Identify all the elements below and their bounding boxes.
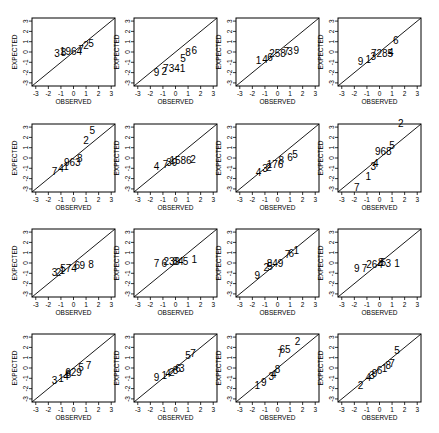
- x-tick-label: -3: [339, 301, 345, 308]
- y-tick-label: 0: [226, 156, 233, 160]
- y-tick-label: 0: [226, 261, 233, 265]
- y-tick-label: -2: [328, 385, 335, 391]
- y-tick-label: -2: [124, 385, 131, 391]
- point-label: 5: [78, 362, 84, 373]
- x-axis-label: OBSERVED: [55, 98, 91, 105]
- point-label: 9: [154, 372, 160, 383]
- x-tick-label: -1: [58, 406, 64, 413]
- x-tick-label: -3: [237, 196, 243, 203]
- y-axis-label: EXPECTED: [215, 350, 222, 385]
- y-tick-label: -2: [226, 280, 233, 286]
- point-label: 8: [185, 47, 191, 58]
- y-tick-label: 0: [124, 261, 131, 265]
- y-tick-label: 0: [328, 261, 335, 265]
- x-tick-label: 0: [378, 301, 382, 308]
- x-axis-label: OBSERVED: [259, 98, 295, 105]
- y-axis-label: EXPECTED: [113, 245, 120, 280]
- y-tick-label: -2: [124, 175, 131, 181]
- x-tick-label: 1: [390, 301, 394, 308]
- x-tick-label: 0: [72, 406, 76, 413]
- y-tick-label: -2: [22, 175, 29, 181]
- x-axis-label: OBSERVED: [157, 309, 193, 316]
- y-tick-label: -2: [226, 69, 233, 75]
- point-label: 1: [256, 55, 262, 66]
- point-label: 3: [52, 375, 58, 386]
- x-axis-label: OBSERVED: [157, 414, 193, 421]
- point-label: 9: [154, 67, 160, 78]
- x-tick-label: -3: [33, 196, 39, 203]
- x-tick-label: 3: [109, 301, 113, 308]
- x-tick-label: 3: [415, 406, 419, 413]
- y-axis-label: EXPECTED: [317, 140, 324, 175]
- x-tick-label: -1: [58, 196, 64, 203]
- y-axis-label: EXPECTED: [317, 350, 324, 385]
- y-axis-label: EXPECTED: [11, 34, 18, 69]
- point-label: 3: [386, 258, 392, 269]
- x-tick-label: 2: [97, 90, 101, 97]
- y-tick-label: 1: [124, 146, 131, 150]
- point-label: 9: [358, 56, 364, 67]
- y-tick-label: -3: [226, 186, 233, 192]
- y-tick-label: 1: [124, 40, 131, 44]
- x-tick-label: -3: [135, 196, 141, 203]
- point-label: 9: [261, 377, 267, 388]
- x-tick-label: -2: [249, 406, 255, 413]
- y-tick-label: -1: [124, 375, 131, 381]
- y-axis-label: EXPECTED: [113, 140, 120, 175]
- point-label: 1: [192, 254, 198, 265]
- x-tick-label: -2: [147, 301, 153, 308]
- x-tick-label: 0: [276, 301, 280, 308]
- point-label: 1: [294, 245, 300, 256]
- point-label: 65: [279, 344, 291, 355]
- x-tick-label: 1: [390, 90, 394, 97]
- x-tick-label: -3: [33, 90, 39, 97]
- x-tick-label: 1: [84, 90, 88, 97]
- x-tick-label: -3: [237, 90, 243, 97]
- y-tick-label: 1: [226, 251, 233, 255]
- point-label: 7: [86, 360, 92, 371]
- y-tick-label: 2: [22, 135, 29, 139]
- point-label: 3: [179, 363, 185, 374]
- x-tick-label: -2: [147, 196, 153, 203]
- x-tick-label: 1: [288, 196, 292, 203]
- point-label: 1: [365, 171, 371, 182]
- y-tick-label: 1: [328, 251, 335, 255]
- y-tick-label: -2: [226, 175, 233, 181]
- x-tick-label: -2: [45, 196, 51, 203]
- point-label: 4: [388, 47, 394, 58]
- x-tick-label: -1: [364, 196, 370, 203]
- x-tick-label: -3: [135, 406, 141, 413]
- x-tick-label: -1: [262, 301, 268, 308]
- y-tick-label: 2: [22, 240, 29, 244]
- y-tick-label: 1: [22, 146, 29, 150]
- y-tick-label: -1: [22, 375, 29, 381]
- x-tick-label: 0: [378, 196, 382, 203]
- y-tick-label: 3: [328, 125, 335, 129]
- y-tick-label: 0: [226, 50, 233, 54]
- y-tick-label: -1: [328, 270, 335, 276]
- x-tick-label: 0: [276, 406, 280, 413]
- y-tick-label: -1: [328, 375, 335, 381]
- x-tick-label: 1: [288, 406, 292, 413]
- point-label: 5: [88, 38, 94, 49]
- point-label: 5: [394, 345, 400, 356]
- x-tick-label: 1: [186, 406, 190, 413]
- y-tick-label: 0: [124, 50, 131, 54]
- y-tick-label: 0: [328, 366, 335, 370]
- y-tick-label: 2: [226, 345, 233, 349]
- y-tick-label: -2: [226, 385, 233, 391]
- y-tick-label: -1: [226, 375, 233, 381]
- y-tick-label: -3: [328, 291, 335, 297]
- point-label: 5: [292, 149, 298, 160]
- x-tick-label: -1: [58, 90, 64, 97]
- x-tick-label: -3: [135, 90, 141, 97]
- y-tick-label: -2: [22, 69, 29, 75]
- y-tick-label: -3: [226, 291, 233, 297]
- y-tick-label: -3: [226, 80, 233, 86]
- y-tick-label: 3: [124, 19, 131, 23]
- y-tick-label: -3: [328, 186, 335, 192]
- x-tick-label: 1: [186, 90, 190, 97]
- qq-panel: -3-2-10123-3-2-10123OBSERVEDEXPECTED1462…: [215, 18, 319, 105]
- y-tick-label: -1: [22, 165, 29, 171]
- y-tick-label: 2: [328, 29, 335, 33]
